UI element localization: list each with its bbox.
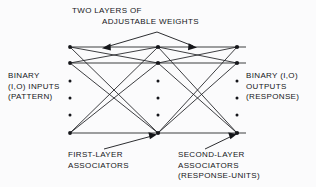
node-input-1	[68, 45, 72, 49]
node-group-second-layer-associators	[235, 45, 239, 135]
label-second-layer-associators: SECOND-LAYER ASSOCIATORS (RESPONSE-UNITS…	[178, 150, 280, 182]
node-group-first-layer-associators	[156, 45, 160, 135]
label-first-layer-associators: FIRST-LAYER ASSOCIATORS	[68, 150, 154, 171]
label-second-layer-associators-line2: ASSOCIATORS	[178, 161, 280, 172]
node-input-2	[68, 61, 72, 65]
label-adjustable-weights-line2: ADJUSTABLE WEIGHTS	[72, 17, 252, 28]
node-first-assoc-1	[156, 45, 160, 49]
ellipsis-dot-second-assoc-2	[236, 97, 239, 100]
label-binary-inputs-line2: (I,O) INPUTS	[8, 82, 70, 93]
ellipsis-dot-first-assoc-2	[157, 97, 160, 100]
ellipsis-dot-second-assoc-1	[236, 80, 239, 83]
node-second-assoc-2	[235, 61, 239, 65]
edge-group-first-to-second-layer	[158, 47, 237, 133]
node-second-assoc-1	[235, 45, 239, 49]
label-binary-inputs-line3: (PATTERN)	[8, 92, 70, 103]
weights-arrow-left-shaft	[106, 32, 157, 47]
figure-canvas: TWO LAYERS OF ADJUSTABLE WEIGHTS BINARY …	[0, 0, 316, 187]
label-binary-inputs: BINARY (I,O) INPUTS (PATTERN)	[8, 71, 70, 103]
label-binary-inputs-line1: BINARY	[8, 71, 70, 82]
ellipsis-dot-input-3	[69, 114, 72, 117]
first-assoc-arrow-shaft	[104, 136, 152, 149]
label-second-layer-associators-line1: SECOND-LAYER	[178, 150, 280, 161]
label-binary-outputs-line1: BINARY (I,O)	[246, 71, 314, 82]
ellipsis-dot-second-assoc-3	[236, 114, 239, 117]
label-adjustable-weights: TWO LAYERS OF ADJUSTABLE WEIGHTS	[72, 6, 252, 27]
output-stub-group	[237, 47, 246, 133]
edge-group-input-to-first-layer	[70, 47, 158, 133]
label-adjustable-weights-line1: TWO LAYERS OF	[72, 6, 252, 17]
weights-arrow-right-shaft	[157, 32, 193, 46]
node-first-assoc-3	[156, 131, 160, 135]
node-input-3	[68, 131, 72, 135]
ellipsis-dot-first-assoc-1	[157, 80, 160, 83]
label-binary-outputs-line3: (RESPONSE)	[246, 92, 314, 103]
label-first-layer-associators-line2: ASSOCIATORS	[68, 161, 154, 172]
label-binary-outputs: BINARY (I,O) OUTPUTS (RESPONSE)	[246, 71, 314, 103]
second-assoc-arrow-shaft	[205, 136, 232, 149]
node-first-assoc-2	[156, 61, 160, 65]
label-first-layer-associators-line1: FIRST-LAYER	[68, 150, 154, 161]
label-second-layer-associators-line3: (RESPONSE-UNITS)	[178, 171, 280, 182]
ellipsis-dot-first-assoc-3	[157, 114, 160, 117]
label-binary-outputs-line2: OUTPUTS	[246, 82, 314, 93]
